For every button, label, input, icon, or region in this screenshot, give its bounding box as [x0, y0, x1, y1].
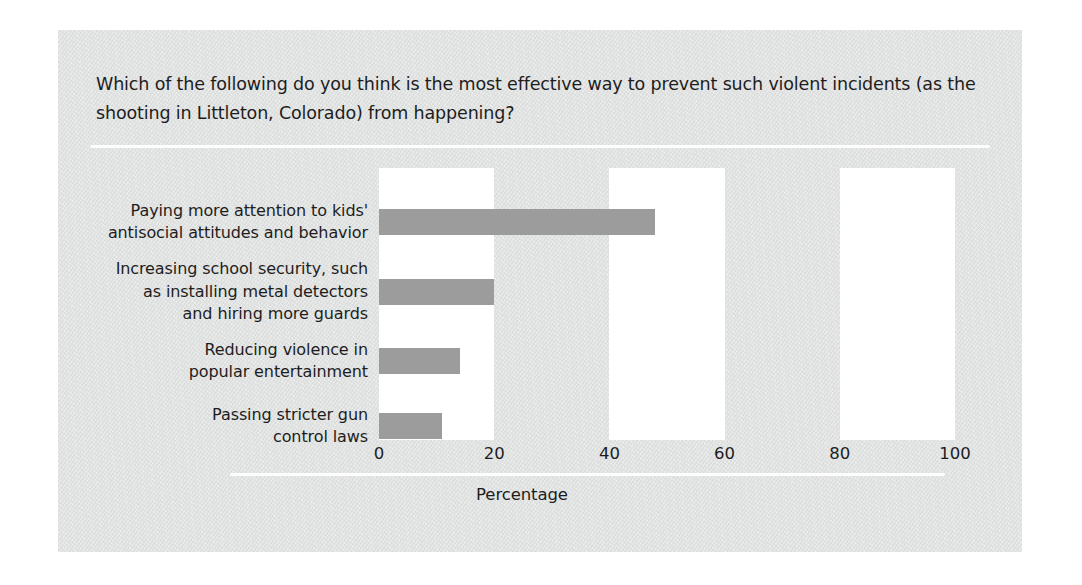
bar-2	[379, 348, 460, 374]
category-label-1: Increasing school security, such as inst…	[68, 258, 368, 326]
divider-rule-bottom	[230, 473, 945, 476]
x-tick-60: 60	[714, 444, 735, 463]
category-axis-labels: Paying more attention to kids' antisocia…	[63, 168, 368, 440]
x-tick-20: 20	[484, 444, 505, 463]
category-label-3: Passing stricter gun control laws	[68, 404, 368, 449]
category-label-2: Reducing violence in popular entertainme…	[68, 339, 368, 384]
x-tick-80: 80	[829, 444, 850, 463]
x-axis-tick-labels: 020406080100	[379, 444, 955, 470]
divider-rule-top	[90, 145, 990, 148]
plot-area	[379, 168, 955, 440]
x-axis-title: Percentage	[58, 485, 1022, 504]
bar-3	[379, 413, 442, 439]
chart-question-title: Which of the following do you think is t…	[96, 70, 976, 128]
bar-1	[379, 279, 494, 305]
x-tick-40: 40	[599, 444, 620, 463]
figure-panel: Which of the following do you think is t…	[58, 30, 1022, 552]
x-axis-title-text: Percentage	[476, 485, 568, 504]
bar-0	[379, 209, 655, 235]
category-label-0: Paying more attention to kids' antisocia…	[68, 200, 368, 245]
plot-band-2	[840, 168, 955, 440]
x-tick-0: 0	[374, 444, 385, 463]
x-tick-100: 100	[939, 444, 971, 463]
